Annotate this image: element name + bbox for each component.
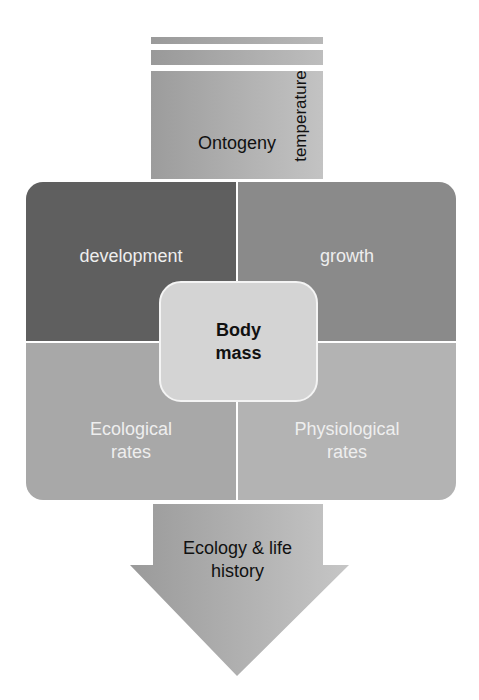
ecology-life-history-label: Ecology & life history — [152, 537, 323, 583]
arrow-label-line2: history — [211, 561, 264, 581]
output-arrow — [0, 0, 479, 700]
arrow-label-line1: Ecology & life — [183, 538, 292, 558]
